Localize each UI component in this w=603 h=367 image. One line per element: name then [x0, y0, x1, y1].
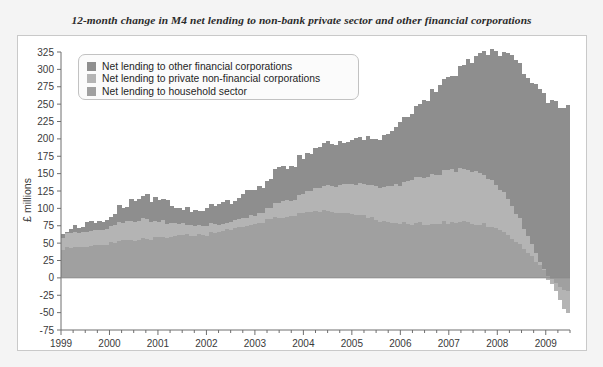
svg-text:-50: -50 [40, 307, 55, 318]
legend-item: Net lending to other financial corporati… [87, 60, 350, 72]
svg-text:2009: 2009 [535, 338, 558, 349]
svg-text:275: 275 [37, 81, 54, 92]
svg-text:300: 300 [37, 64, 54, 75]
y-axis-label: £ millions [21, 178, 33, 222]
svg-text:2003: 2003 [244, 338, 267, 349]
svg-text:100: 100 [37, 203, 54, 214]
svg-text:250: 250 [37, 99, 54, 110]
y-tick-labels: 3253002752502252001751501251007550250-25… [37, 47, 54, 336]
svg-text:2005: 2005 [341, 338, 364, 349]
legend-swatch-private-non-financial [87, 74, 96, 83]
svg-text:2000: 2000 [98, 338, 121, 349]
svg-text:1999: 1999 [50, 338, 73, 349]
svg-text:200: 200 [37, 133, 54, 144]
svg-text:50: 50 [43, 238, 55, 249]
svg-text:175: 175 [37, 151, 54, 162]
svg-text:2001: 2001 [147, 338, 170, 349]
legend-item: Net lending to household sector [87, 86, 350, 98]
svg-text:25: 25 [43, 255, 55, 266]
legend-swatch-other-financial [87, 62, 96, 71]
svg-text:2004: 2004 [292, 338, 315, 349]
chart-legend: Net lending to other financial corporati… [78, 54, 359, 100]
svg-text:2006: 2006 [389, 338, 412, 349]
legend-label: Net lending to private non-financial cor… [102, 73, 320, 84]
figure-container: 12-month change in M4 net lending to non… [0, 0, 603, 367]
legend-label: Net lending to household sector [102, 86, 247, 97]
svg-text:-25: -25 [40, 290, 55, 301]
svg-text:225: 225 [37, 116, 54, 127]
legend-swatch-household [87, 87, 96, 96]
svg-text:150: 150 [37, 168, 54, 179]
svg-text:2008: 2008 [486, 338, 509, 349]
legend-label: Net lending to other financial corporati… [102, 61, 292, 72]
svg-text:2007: 2007 [438, 338, 461, 349]
svg-text:-75: -75 [40, 325, 55, 336]
svg-text:2002: 2002 [195, 338, 218, 349]
svg-text:125: 125 [37, 186, 54, 197]
svg-text:325: 325 [37, 47, 54, 58]
svg-text:75: 75 [43, 220, 55, 231]
x-tick-labels: 1999200020012002200320042005200620072008… [50, 338, 557, 349]
svg-text:0: 0 [48, 272, 54, 283]
legend-item: Net lending to private non-financial cor… [87, 73, 350, 85]
